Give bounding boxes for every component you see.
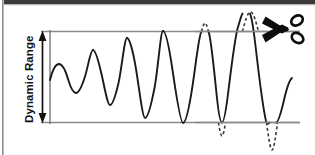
page-top-bar [4,0,315,4]
dynamic-range-label: Dynamic Range [23,35,35,123]
figure-container: Dynamic Range [0,0,315,155]
page-left-rule [2,0,4,155]
dynamic-range-chart: Dynamic Range [0,0,315,155]
scissors-pivot [284,27,288,31]
page-top-bar-shadow [4,4,315,5]
